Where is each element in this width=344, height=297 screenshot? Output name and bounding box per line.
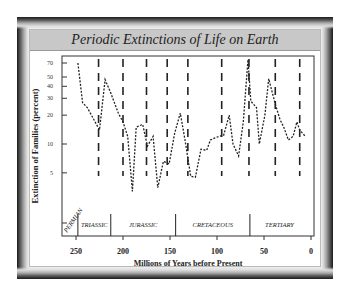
geologic-periods: PERMIANTRIASSICJURASSICCRETACEOUSTERTIAR… — [62, 206, 296, 236]
data-series — [78, 60, 306, 192]
x-tick-label: 50 — [260, 247, 268, 256]
x-tick-label: 200 — [117, 247, 129, 256]
chart-plot: 7050403020105250200150100500 PERMIANTRIA… — [0, 0, 344, 297]
x-tick-label: 100 — [211, 247, 223, 256]
period-label: TERTIARY — [265, 221, 295, 228]
period-label: TRIASSIC — [81, 221, 108, 228]
x-axis-title: Millions of Years before Present — [134, 259, 243, 268]
period-label: JURASSIC — [129, 221, 158, 228]
y-tick-label: 50 — [47, 74, 53, 80]
y-tick-label: 70 — [47, 60, 53, 66]
x-tick-label: 150 — [164, 247, 176, 256]
y-tick-label: 5 — [50, 170, 53, 176]
periodic-extinction-lines — [99, 59, 300, 176]
y-tick-label: 30 — [47, 95, 53, 101]
y-axis-title: Extinction of Families (percent) — [30, 88, 40, 203]
x-tick-label: 0 — [309, 247, 313, 256]
period-label: CRETACEOUS — [193, 221, 234, 228]
x-tick-label: 250 — [70, 247, 82, 256]
y-tick-label: 10 — [47, 141, 53, 147]
extinction-line — [78, 60, 306, 192]
y-tick-label: 40 — [47, 83, 53, 89]
y-tick-label: 20 — [47, 112, 53, 118]
